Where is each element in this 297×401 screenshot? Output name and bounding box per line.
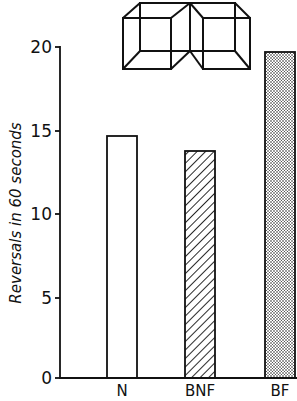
bar-chart: 20 15 10 5 0 Reversals in 60 seconds N B… xyxy=(0,0,297,401)
bar-n xyxy=(107,136,137,378)
necker-cube-figure xyxy=(123,3,250,69)
y-axis xyxy=(55,46,60,379)
x-tick-labels: N BNF BF xyxy=(116,382,289,400)
x-label-n: N xyxy=(116,382,127,400)
y-tick-label: 5 xyxy=(41,288,52,308)
bars xyxy=(107,52,295,378)
bar-bnf xyxy=(185,151,215,378)
x-label-bnf: BNF xyxy=(185,382,215,400)
bar-bf xyxy=(265,52,295,378)
y-tick-label: 15 xyxy=(30,121,52,141)
y-tick-label: 0 xyxy=(41,368,52,388)
y-axis-label: Reversals in 60 seconds xyxy=(7,122,25,303)
y-tick-label: 10 xyxy=(30,204,52,224)
y-tick-labels: 20 15 10 5 0 xyxy=(30,37,52,388)
y-tick-label: 20 xyxy=(30,37,52,57)
x-label-bf: BF xyxy=(271,382,290,400)
